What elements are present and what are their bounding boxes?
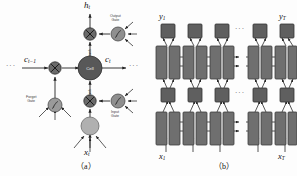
input-gate-label: Input Gate [111, 110, 119, 118]
lstm-block [156, 46, 167, 79]
ellipsis-right: ··· [129, 62, 139, 70]
label-c-prev: ct−1 [24, 55, 36, 65]
panel-b-graphics [150, 0, 297, 176]
panel-a-edges [22, 14, 126, 148]
label-x-T: xT [278, 152, 285, 161]
hidden-square [253, 88, 267, 102]
lstm-block [223, 46, 234, 79]
lstm-block [183, 46, 194, 79]
ellipsis-top-row: ··· [235, 25, 245, 33]
hidden-square [280, 88, 294, 102]
panel-b-lower-blocks [156, 112, 297, 145]
lstm-block [196, 112, 207, 145]
panel-a-caption: （a） [76, 160, 96, 171]
lstm-block [248, 46, 259, 79]
hidden-square [215, 88, 229, 102]
lstm-block [288, 112, 297, 145]
output-square [188, 24, 202, 38]
output-square [253, 24, 267, 38]
output-square [161, 24, 175, 38]
lstm-block [275, 46, 286, 79]
label-c-t: ct [105, 55, 111, 65]
forget-gate-label: Forget Gate [26, 95, 36, 103]
tanh-label-lower: tanh [88, 89, 92, 96]
label-y-T: yT [279, 12, 286, 21]
panel-b-bidirectional-rnn: y1 yT x1 xT ··· ··· （b） [150, 0, 297, 176]
lstm-block [210, 46, 221, 79]
figure-canvas: ht ct−1 ct xt ··· ··· Forget Gate Output… [0, 0, 297, 176]
input-node [81, 117, 99, 135]
hidden-square [188, 88, 202, 102]
panel-b-hidden-squares [161, 88, 294, 102]
label-h-t: ht [84, 1, 90, 11]
lstm-block [169, 112, 180, 145]
lstm-block [183, 112, 194, 145]
lstm-block [275, 112, 286, 145]
panel-a-graphics [0, 0, 150, 176]
label-x-t: xt [84, 148, 90, 158]
panel-b-caption: （b） [214, 160, 234, 171]
ellipsis-left: ··· [6, 62, 16, 70]
panel-a-lstm-cell: ht ct−1 ct xt ··· ··· Forget Gate Output… [0, 0, 150, 176]
lstm-block [196, 46, 207, 79]
hidden-square [161, 88, 175, 102]
output-square [215, 24, 229, 38]
tanh-label-upper: tanh [88, 49, 92, 56]
lstm-block [223, 112, 234, 145]
lstm-block [169, 46, 180, 79]
label-y-1: y1 [159, 12, 165, 21]
lstm-block [210, 112, 221, 145]
lstm-block [261, 112, 272, 145]
label-x-1: x1 [159, 152, 165, 161]
lstm-block [261, 46, 272, 79]
cell-label: Cell [82, 66, 98, 71]
panel-a-nodes [48, 27, 125, 135]
output-square [280, 24, 294, 38]
output-gate-label: Output Gate [110, 14, 121, 22]
panel-b-upper-blocks [156, 46, 297, 79]
lstm-block [248, 112, 259, 145]
lstm-block [156, 112, 167, 145]
ellipsis-middle-row: ··· [235, 89, 245, 97]
lstm-block [288, 46, 297, 79]
panel-b-output-squares [161, 24, 294, 38]
